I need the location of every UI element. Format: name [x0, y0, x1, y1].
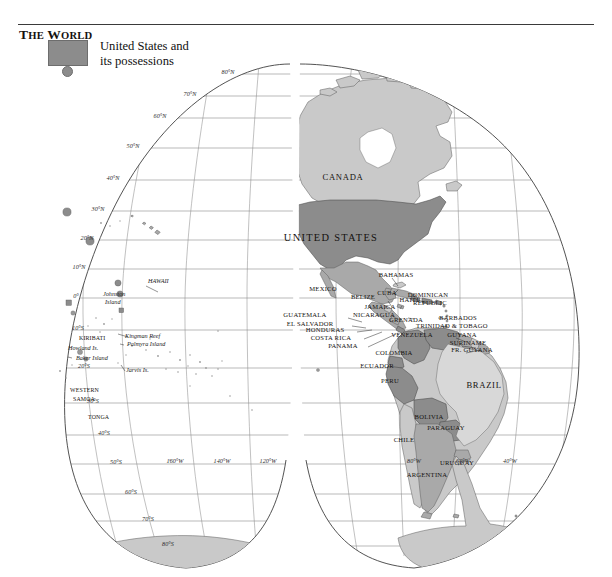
map-label-country: ECUADOR: [360, 362, 394, 369]
graticule-meridians-left: [83, 64, 259, 556]
map-label-country: CHILE: [394, 436, 415, 443]
dot-baker-island: [66, 300, 71, 305]
graticule-label-latitude: 80°S: [162, 540, 174, 547]
graticule-label-latitude: 80°N: [222, 68, 236, 75]
map-label-pacific: Jarvis Is.: [126, 366, 149, 373]
map-label-country: GUYANA: [447, 331, 476, 338]
graticule-label-latitude: 70°N: [184, 90, 198, 97]
bahamas: [393, 282, 406, 288]
graticule-label-longitude: 60°W: [456, 457, 471, 464]
graticule-label-latitude: 60°S: [125, 488, 137, 495]
graticule-latitudes-left: [40, 74, 300, 546]
map-label-country: BOLIVIA: [415, 413, 444, 420]
graticule-label-longitude: 140°W: [214, 457, 232, 464]
map-label-country: PERU: [381, 377, 399, 384]
graticule-label-latitude: 30°N: [91, 205, 106, 212]
map-label-major: UNITED STATES: [284, 232, 378, 243]
map-label-country: PARAGUAY: [427, 424, 464, 431]
greenland: [458, 70, 516, 104]
world-map: CANADAUNITED STATESBRAZILMEXICO BAHAMASC…: [0, 56, 612, 577]
graticule-label-latitude: 40°N: [107, 174, 121, 181]
pacific-island-labels: HAWAIIJohnstonIslandKIRIBATIKingman Reef…: [67, 277, 170, 420]
graticule-label-latitude: 10°S: [72, 324, 84, 331]
map-label-country: REPUBLIC: [413, 299, 447, 306]
map-label-country: COLOMBIA: [375, 349, 412, 356]
dot-howland-island: [71, 311, 75, 315]
map-label-major: MEXICO: [309, 285, 337, 292]
south-atlantic-island: [515, 515, 517, 517]
graticule-label-longitude: 80°W: [407, 457, 422, 464]
falkland-islands: [453, 514, 459, 518]
map-label-country: BAHAMAS: [379, 271, 414, 278]
map-label-major: CANADA: [323, 172, 364, 182]
map-label-pacific: Kingman Reef: [124, 332, 162, 339]
map-page: THE WORLD United States and its possessi…: [0, 0, 612, 577]
map-label-country: SURINAME: [450, 339, 486, 346]
map-label-pacific: HAWAII: [147, 277, 170, 284]
legend-line-1: United States and: [100, 39, 290, 54]
map-label-pacific: Palmyra Island: [126, 340, 166, 347]
dot-midway: [63, 208, 71, 216]
newfoundland: [446, 181, 462, 191]
map-label-country: DOMINICAN: [408, 291, 449, 298]
map-label-country: BELIZE: [351, 293, 375, 300]
graticule-label-latitude: 60°N: [154, 112, 168, 119]
map-label-country: COSTA RICA: [311, 334, 352, 341]
galapagos: [316, 368, 319, 371]
graticule-label-latitude: 0°: [73, 292, 79, 299]
graticule-label-latitude: 20°N: [81, 234, 95, 241]
alaska: [206, 138, 266, 182]
map-label-country: BARBADOS: [439, 314, 477, 321]
map-label-country: PANAMA: [328, 342, 357, 349]
map-label-country: HONDURAS: [306, 326, 345, 333]
map-label-country: JAMAICA: [364, 303, 395, 310]
graticule-label-latitude: 50°S: [110, 458, 122, 465]
antarctica-left: [92, 536, 282, 570]
graticule-label-longitude: 160°W: [167, 457, 185, 464]
map-label-country: VENEZUELA: [391, 331, 432, 338]
graticule-label-latitude: 20°S: [78, 362, 90, 369]
map-label-pacific: Island: [104, 298, 121, 305]
dot-jarvis-island: [119, 308, 124, 313]
map-label-country: FR. GUYANA: [451, 346, 493, 353]
map-label-country: ARGENTINA: [407, 471, 448, 478]
alaska-west-island: [194, 140, 214, 151]
map-label-pacific: KIRIBATI: [79, 335, 105, 341]
graticule-label-latitude: 30°S: [86, 397, 99, 404]
map-label-pacific: Johnston: [103, 290, 125, 297]
graticule-label-latitude: 50°N: [127, 142, 141, 149]
graticule-label-latitude: 40°S: [98, 429, 110, 436]
map-label-country: GUATEMALA: [283, 311, 326, 318]
map-label-pacific: WESTERN: [70, 387, 99, 393]
map-label-major: BRAZIL: [466, 380, 501, 390]
dot-kingman-reef: [115, 280, 121, 286]
graticule-label-latitude: 10°N: [73, 263, 87, 270]
header-divider: [18, 24, 594, 25]
lobe-outline-left: [65, 64, 290, 568]
aleutian-islands: [153, 182, 204, 198]
longitude-labels: 160°W140°W120°W80°W60°W40°W: [167, 457, 518, 464]
graticule-label-longitude: 120°W: [260, 457, 278, 464]
map-label-pacific: Baker Island: [76, 354, 109, 361]
latitude-labels: 80°N70°N60°N50°N40°N30°N20°N10°N0°10°S20…: [72, 68, 235, 547]
map-label-country: CUBA: [377, 289, 396, 296]
graticule-label-longitude: 40°W: [503, 457, 518, 464]
graticule-label-latitude: 70°S: [142, 515, 154, 522]
map-label-country: TRINIDAD & TOBAGO: [416, 322, 488, 329]
map-label-pacific: Howland Is.: [67, 344, 98, 351]
lobe-pacific: [40, 64, 300, 570]
map-label-pacific: TONGA: [88, 414, 110, 420]
